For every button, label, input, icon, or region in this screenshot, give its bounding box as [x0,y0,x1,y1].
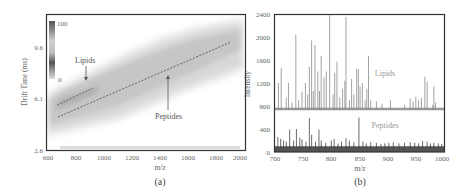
colorbar-min-label: 0 [58,76,62,84]
svg-text:1000: 1000 [435,155,450,163]
spectra-bars [275,15,444,152]
svg-text:1600: 1600 [256,57,271,65]
panel-b-y-ticks: 2400 2000 1600 1200 800 400 0 [256,11,271,157]
panel-b-caption: (b) [354,176,366,188]
svg-text:900: 900 [383,155,394,163]
svg-text:2400: 2400 [256,11,271,19]
panel-a-x-label: m/z [154,163,166,172]
svg-text:800: 800 [260,103,271,111]
svg-text:6.1: 6.1 [34,95,43,103]
svg-text:1200: 1200 [256,80,271,88]
svg-text:2000: 2000 [233,154,248,162]
peptides-label: Peptides [371,121,398,130]
svg-text:1200: 1200 [125,154,140,162]
svg-text:850: 850 [355,155,366,163]
panel-a-y-ticks: 9.6 6.1 2.6 [34,44,43,155]
colorbar-max-label: 100 [57,20,68,28]
svg-text:750: 750 [298,155,309,163]
svg-text:1800: 1800 [209,154,224,162]
panel-b-x-label: m/z [354,164,366,173]
panel-a-heatmap: 100 0 Lipids Peptides 9.6 6.1 2.6 Drift … [20,15,248,189]
svg-text:950: 950 [411,155,422,163]
figure: 100 0 Lipids Peptides 9.6 6.1 2.6 Drift … [0,0,472,196]
lipids-annotation: Lipids [75,56,95,65]
svg-text:1000: 1000 [97,154,112,162]
colorbar [49,21,55,79]
svg-text:600: 600 [43,154,54,162]
panel-a-caption: (a) [154,176,165,188]
panel-b-spectrum: Lipids Peptides 2400 2000 1600 1200 800 … [243,11,450,188]
svg-text:700: 700 [270,155,281,163]
svg-text:800: 800 [326,155,337,163]
peptides-annotation: Peptides [155,112,182,121]
panel-a-y-label: Drift Time (ms) [20,58,29,106]
svg-text:1600: 1600 [181,154,196,162]
svg-text:2000: 2000 [256,34,271,42]
panel-b-x-ticks: 700 750 800 850 900 950 1000 [270,155,450,163]
svg-text:400: 400 [260,126,271,134]
panel-b-y-label: Intensity [243,71,252,97]
svg-text:9.6: 9.6 [34,44,43,52]
svg-text:800: 800 [71,154,82,162]
panel-b-frame [275,15,445,153]
svg-text:1400: 1400 [153,154,168,162]
panel-a-x-ticks: 600 800 1000 1200 1400 1600 1800 2000 [43,154,248,162]
lipids-label: Lipids [375,69,395,78]
